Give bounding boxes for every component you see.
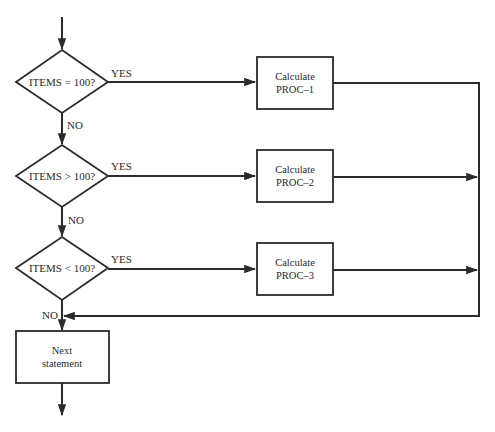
process-label-line1: Calculate: [275, 71, 315, 82]
process-box: [257, 150, 333, 202]
process-label-line1: Calculate: [275, 257, 315, 268]
process-label-line2: PROC–3: [276, 270, 314, 281]
no-label-1: NO: [67, 119, 83, 131]
process-proc-1: Calculate PROC–1: [257, 57, 333, 109]
flowchart: ITEMS = 100? YES NO Calculate PROC–1 ITE…: [0, 0, 495, 432]
decision-label: ITEMS < 100?: [29, 262, 95, 274]
process-label-line1: Calculate: [275, 164, 315, 175]
decision-items-equal-100: ITEMS = 100?: [16, 50, 108, 113]
next-statement: Next statement: [16, 331, 109, 383]
next-label-line1: Next: [52, 345, 72, 356]
no-label-2: NO: [68, 214, 84, 226]
next-label-line2: statement: [42, 358, 82, 369]
no-label-3: NO: [42, 309, 58, 321]
process-label-line2: PROC–2: [276, 177, 314, 188]
decision-label: ITEMS = 100?: [29, 76, 95, 88]
yes-label-2: YES: [111, 160, 132, 172]
decision-label: ITEMS > 100?: [29, 170, 95, 182]
process-proc-2: Calculate PROC–2: [257, 150, 333, 202]
process-proc-3: Calculate PROC–3: [257, 243, 333, 295]
process-box: [16, 331, 109, 383]
decision-items-less-100: ITEMS < 100?: [16, 237, 108, 300]
process-box: [257, 243, 333, 295]
connector-proc-1-right: [333, 83, 479, 317]
yes-label-3: YES: [111, 253, 132, 265]
yes-label-1: YES: [111, 67, 132, 79]
decision-items-greater-100: ITEMS > 100?: [16, 145, 108, 207]
process-box: [257, 57, 333, 109]
process-label-line2: PROC–1: [276, 84, 314, 95]
